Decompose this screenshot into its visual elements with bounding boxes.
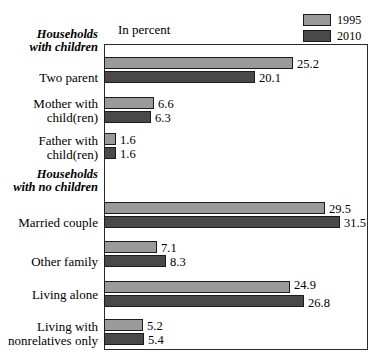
legend-label-1995: 1995 [337, 14, 361, 26]
legend-item-1995: 1995 [303, 12, 385, 27]
category-label-line1: Living with [37, 319, 98, 334]
bar-other-family-2010 [104, 255, 166, 267]
bar-value-father-2010: 1.6 [120, 148, 136, 160]
category-label-line2: child(ren) [0, 111, 98, 125]
bar-father-2010 [104, 147, 116, 159]
category-label-two-parent: Two parent [0, 71, 98, 85]
category-label-line1: Married couple [18, 215, 98, 230]
bar-two-parent-2010 [104, 71, 255, 83]
chart-legend: 1995 2010 [303, 12, 385, 44]
category-label-line1: Other family [31, 254, 98, 269]
section-header-line1: Households [37, 27, 98, 41]
bar-value-two-parent-1995: 25.2 [297, 58, 319, 70]
category-label-line2: child(ren) [0, 148, 98, 162]
category-label-line1: Mother with [33, 96, 98, 111]
legend-item-2010: 2010 [303, 28, 385, 43]
legend-swatch-1995 [303, 14, 331, 26]
section-header-line2: with children [0, 41, 98, 54]
section-header-line2: with no children [0, 181, 98, 194]
category-label-line1: Living alone [32, 287, 98, 302]
bar-mother-1995 [104, 97, 154, 109]
bar-value-nonrelatives-2010: 5.4 [148, 334, 164, 346]
category-label-line2: nonrelatives only [0, 334, 98, 348]
category-label-other-family: Other family [0, 255, 98, 269]
bar-living-alone-2010 [104, 295, 304, 307]
bar-living-alone-1995 [104, 281, 290, 293]
bar-mother-2010 [104, 111, 151, 123]
grouped-bar-chart: 1995 2010 In percent Households with chi… [0, 0, 390, 364]
bar-value-living-alone-1995: 24.9 [294, 279, 316, 291]
category-label-line1: Father with [38, 133, 98, 148]
category-label-father-with-children: Father with child(ren) [0, 134, 98, 161]
section-header-households-with-no-children: Households with no children [0, 168, 98, 193]
bar-value-two-parent-2010: 20.1 [259, 72, 281, 84]
bar-value-nonrelatives-1995: 5.2 [147, 320, 163, 332]
bar-value-mother-2010: 6.3 [155, 112, 171, 124]
category-label-line1: Two parent [39, 70, 98, 85]
bar-married-2010 [104, 216, 340, 228]
category-label-mother-with-children: Mother with child(ren) [0, 97, 98, 124]
bar-other-family-1995 [104, 241, 157, 253]
section-header-line1: Households [37, 167, 98, 181]
axis-caption: In percent [118, 22, 170, 38]
bar-married-1995 [104, 202, 325, 214]
legend-label-2010: 2010 [337, 30, 361, 42]
bar-nonrelatives-2010 [104, 333, 144, 345]
bar-value-other-family-2010: 8.3 [170, 256, 186, 268]
bar-nonrelatives-1995 [104, 319, 143, 331]
category-label-living-with-nonrelatives: Living with nonrelatives only [0, 320, 98, 347]
category-label-married-couple: Married couple [0, 216, 98, 230]
bar-value-father-1995: 1.6 [120, 134, 136, 146]
legend-swatch-2010 [303, 30, 331, 42]
bar-value-living-alone-2010: 26.8 [308, 297, 330, 309]
bar-two-parent-1995 [104, 57, 293, 69]
bar-value-other-family-1995: 7.1 [161, 242, 177, 254]
category-label-living-alone: Living alone [0, 288, 98, 302]
bar-value-mother-1995: 6.6 [158, 98, 174, 110]
section-header-households-with-children: Households with children [0, 28, 98, 53]
bar-father-1995 [104, 133, 116, 145]
bar-value-married-2010: 31.5 [344, 217, 366, 229]
bar-value-married-1995: 29.5 [329, 203, 351, 215]
